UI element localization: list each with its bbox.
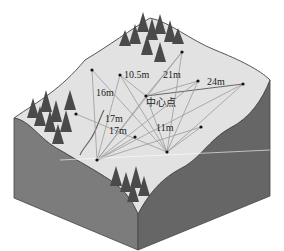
distance-label-17m-a: 17m [105, 113, 123, 124]
center-point-label: 中心点 [146, 96, 176, 108]
terrain-diagram: 中心点 10.5m 21m 24m 16m 17m 17m 11m [0, 0, 284, 251]
terrain-svg: 中心点 10.5m 21m 24m 16m 17m 17m 11m [0, 0, 284, 251]
distance-label-10-5m: 10.5m [124, 69, 150, 80]
distance-label-16m: 16m [96, 87, 114, 98]
distance-label-11m: 11m [156, 122, 174, 133]
distance-label-17m-b: 17m [109, 125, 127, 136]
distance-label-21m: 21m [163, 69, 181, 80]
distance-label-24m: 24m [207, 76, 225, 87]
